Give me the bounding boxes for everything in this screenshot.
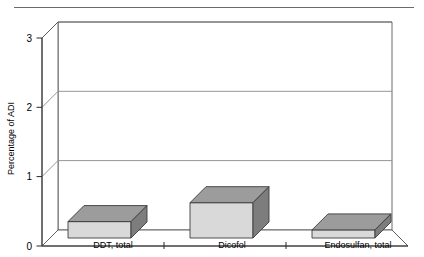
x-category-label-ddt-total: DDT, total [93, 240, 133, 250]
bar-group-endosulfan-total [312, 214, 391, 238]
bar-group-ddt-total [68, 206, 147, 238]
y-tick-label-2: 2 [26, 102, 32, 113]
y-axis-title: Percentage of ADI [6, 102, 16, 175]
x-category-label-dicofol: Dicofol [218, 240, 246, 250]
bar-front-face [68, 222, 131, 238]
bar-front-face [312, 230, 375, 238]
left-wall [42, 22, 58, 246]
y-tick-label-3: 3 [26, 33, 32, 44]
bar-chart-3d: 3 2 1 0 Percentage of ADI [0, 0, 424, 257]
bar-front-face [190, 203, 253, 238]
chart-container: 3 2 1 0 Percentage of ADI [0, 0, 424, 257]
y-tick-label-0: 0 [26, 241, 32, 252]
bar-group-dicofol [190, 187, 269, 238]
y-tick-label-1: 1 [26, 171, 32, 182]
x-category-label-endosulfan-total: Endosulfan, total [324, 240, 391, 250]
